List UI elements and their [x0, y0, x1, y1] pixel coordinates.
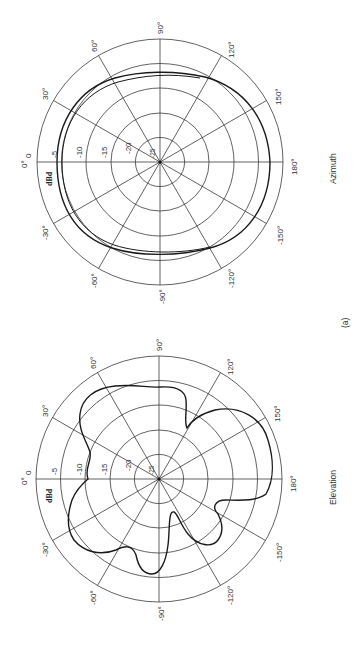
elevation-title: Elevation	[328, 470, 338, 505]
figure-caption: (a)	[340, 317, 350, 328]
svg-text:-30°: -30°	[41, 225, 50, 240]
svg-text:-5: -5	[50, 150, 59, 158]
azimuth-polar-plot: 0 -5 -10 -15 -20 -25 dBd 0° 30° 60° 90° …	[20, 22, 338, 304]
svg-text:-10: -10	[75, 146, 84, 158]
svg-text:-60°: -60°	[90, 273, 99, 288]
elevation-grid	[36, 356, 282, 602]
antenna-pattern-figure: 0 -5 -10 -15 -20 -25 dBd 0° 30° 60° 90° …	[0, 0, 357, 648]
svg-text:dBd: dBd	[45, 171, 54, 186]
svg-text:150°: 150°	[273, 405, 282, 422]
svg-text:-5: -5	[50, 467, 59, 475]
svg-text:-30°: -30°	[41, 542, 50, 557]
svg-text:-15: -15	[100, 463, 109, 475]
svg-text:0°: 0°	[20, 477, 29, 485]
svg-text:120°: 120°	[227, 41, 236, 58]
svg-text:180°: 180°	[290, 158, 299, 175]
svg-text:30°: 30°	[41, 405, 50, 417]
svg-text:-25: -25	[149, 148, 156, 158]
svg-text:90°: 90°	[156, 22, 165, 34]
svg-text:90°: 90°	[155, 339, 164, 351]
svg-text:-10: -10	[75, 463, 84, 475]
svg-text:-150°: -150°	[275, 543, 284, 562]
svg-text:-120°: -120°	[226, 586, 235, 605]
svg-text:-15: -15	[100, 146, 109, 158]
svg-text:0: 0	[24, 470, 33, 475]
svg-text:0°: 0°	[20, 160, 29, 168]
svg-text:-20: -20	[124, 142, 133, 154]
svg-text:180°: 180°	[289, 475, 298, 492]
elevation-pattern-curve	[69, 385, 273, 574]
elevation-polar-plot: 0 -5 -10 -15 -20 -25 dBd 0° 30° 60° 90° …	[20, 339, 338, 621]
azimuth-pattern-curve-inner	[62, 75, 210, 252]
svg-text:-90°: -90°	[157, 606, 166, 621]
azimuth-pattern-curve	[57, 72, 270, 254]
svg-text:150°: 150°	[274, 88, 283, 105]
svg-text:-120°: -120°	[227, 269, 236, 288]
svg-text:-90°: -90°	[158, 289, 167, 304]
svg-text:0: 0	[24, 153, 33, 158]
svg-text:120°: 120°	[226, 358, 235, 375]
svg-text:-150°: -150°	[276, 226, 285, 245]
svg-text:dBd: dBd	[45, 488, 54, 503]
svg-text:-20: -20	[124, 459, 133, 471]
svg-text:-60°: -60°	[89, 590, 98, 605]
svg-text:30°: 30°	[41, 88, 50, 100]
svg-text:60°: 60°	[89, 357, 98, 369]
svg-text:60°: 60°	[90, 40, 99, 52]
svg-text:-25: -25	[148, 465, 155, 475]
azimuth-title: Azimuth	[328, 153, 338, 184]
